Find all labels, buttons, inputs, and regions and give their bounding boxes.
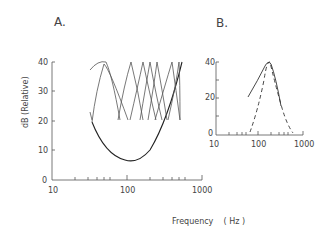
svg-text:1000: 1000 bbox=[294, 140, 314, 149]
svg-text:0: 0 bbox=[208, 129, 213, 138]
chart-a bbox=[52, 62, 202, 180]
dashed-curve bbox=[250, 62, 293, 133]
panel-b-label: B. bbox=[216, 16, 228, 30]
threshold-curve bbox=[92, 62, 182, 161]
svg-text:10: 10 bbox=[209, 140, 219, 149]
svg-text:10: 10 bbox=[38, 146, 48, 155]
svg-text:100: 100 bbox=[251, 140, 266, 149]
svg-text:10: 10 bbox=[48, 186, 58, 195]
solid-curve bbox=[248, 62, 281, 106]
svg-text:1000: 1000 bbox=[192, 186, 212, 195]
svg-text:20: 20 bbox=[38, 117, 48, 126]
svg-text:40: 40 bbox=[205, 58, 215, 67]
y-axis-label: dB (Relative) bbox=[21, 76, 30, 128]
panel-a-label: A. bbox=[54, 15, 66, 29]
figure: A. B. dB (Relative) bbox=[0, 0, 332, 229]
svg-text:0: 0 bbox=[42, 176, 47, 185]
x-axis-label: Frequency ( Hz ) bbox=[172, 217, 245, 226]
svg-text:20: 20 bbox=[205, 93, 215, 102]
svg-text:30: 30 bbox=[38, 87, 48, 96]
svg-text:100: 100 bbox=[120, 186, 135, 195]
chart-a-ticks: 40 30 20 10 0 10 100 1000 bbox=[38, 58, 212, 195]
chart-b bbox=[216, 62, 303, 135]
svg-text:40: 40 bbox=[38, 58, 48, 67]
